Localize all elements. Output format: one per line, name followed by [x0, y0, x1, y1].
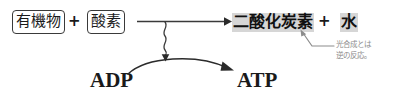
annotation-note: 光合成とは 逆の反応。: [336, 39, 393, 61]
energy-carrier-atp-label: ATP: [237, 70, 277, 91]
reactant-oxygen-label: 酸素: [91, 12, 121, 30]
curved-arrow-icon: [128, 59, 234, 74]
right-arrow-icon: [137, 17, 232, 26]
respiration-equation-diagram: 有機物 + 酸素 二酸化炭素 + 水 ADP ATP 光合成とは 逆の反応。: [0, 0, 393, 97]
reactant-organic-matter-box: 有機物: [12, 10, 65, 34]
annotation-line-1: 光合成とは: [336, 39, 393, 50]
wavy-arrow-icon: [162, 22, 170, 62]
product-plus-operator: +: [318, 14, 331, 29]
annotation-line-2: 逆の反応。: [336, 50, 393, 61]
product-water-label: 水: [340, 13, 358, 32]
product-carbon-dioxide-label: 二酸化炭素: [232, 13, 314, 32]
reactant-organic-matter-label: 有機物: [16, 12, 61, 30]
reactant-oxygen-box: 酸素: [87, 10, 125, 34]
reactant-plus-operator: +: [68, 14, 81, 29]
energy-carrier-adp-label: ADP: [90, 70, 133, 91]
